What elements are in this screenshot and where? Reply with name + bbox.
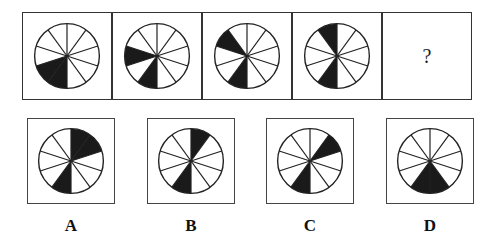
pie-figure xyxy=(120,19,194,93)
option-c[interactable] xyxy=(266,118,354,204)
option-b[interactable] xyxy=(147,118,235,204)
pie-figure xyxy=(154,124,228,198)
question-panel: ? xyxy=(383,13,471,99)
option-a-label[interactable]: A xyxy=(27,216,115,236)
pie-figure xyxy=(210,19,284,93)
option-d-label[interactable]: D xyxy=(386,216,474,236)
pie-figure xyxy=(393,124,467,198)
pie-figure xyxy=(300,19,374,93)
pie-figure xyxy=(30,19,104,93)
option-b-label[interactable]: B xyxy=(147,216,235,236)
sequence-row: ? xyxy=(22,12,472,100)
pie-figure xyxy=(34,124,108,198)
option-c-label[interactable]: C xyxy=(266,216,354,236)
option-a[interactable] xyxy=(27,118,115,204)
question-mark: ? xyxy=(423,45,432,68)
option-d[interactable] xyxy=(386,118,474,204)
sequence-panel-4 xyxy=(293,13,383,99)
sequence-panel-2 xyxy=(113,13,203,99)
sequence-panel-3 xyxy=(203,13,293,99)
pie-figure xyxy=(273,124,347,198)
sequence-panel-1 xyxy=(23,13,113,99)
